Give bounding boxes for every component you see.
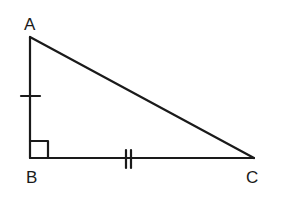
side-ac xyxy=(30,37,254,158)
triangle-diagram: A B C xyxy=(0,0,282,197)
vertex-label-c: C xyxy=(246,168,258,187)
vertex-label-b: B xyxy=(26,168,37,187)
vertex-label-a: A xyxy=(24,15,36,34)
right-angle-marker xyxy=(30,141,48,158)
